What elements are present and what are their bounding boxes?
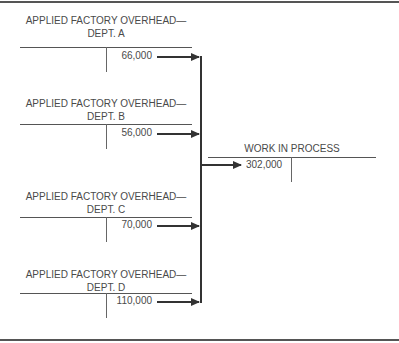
t-account-vertical-line (291, 157, 292, 182)
account-title-line2: DEPT. B (20, 110, 192, 123)
account-title: APPLIED FACTORY OVERHEAD— DEPT. C (20, 190, 192, 216)
account-title: APPLIED FACTORY OVERHEAD— DEPT. A (20, 14, 192, 40)
credit-amount: 70,000 (108, 219, 152, 231)
arrow-right-icon (157, 301, 199, 303)
t-account-vertical-line (106, 47, 107, 72)
arrow-right-icon (201, 164, 241, 166)
wip-title: WORK IN PROCESS (208, 142, 376, 155)
arrow-right-icon (157, 133, 199, 135)
account-title-line2: DEPT. C (20, 203, 192, 216)
account-title-line2: DEPT. A (20, 27, 192, 40)
account-title-line1: APPLIED FACTORY OVERHEAD— (20, 14, 192, 27)
account-title-line1: APPLIED FACTORY OVERHEAD— (20, 190, 192, 203)
account-title: APPLIED FACTORY OVERHEAD— DEPT. B (20, 97, 192, 123)
t-account-vertical-line (106, 293, 107, 318)
account-title: APPLIED FACTORY OVERHEAD— DEPT. D (20, 268, 192, 294)
flow-connector-line (200, 56, 202, 303)
t-account-vertical-line (106, 124, 107, 149)
arrow-right-icon (157, 56, 199, 58)
credit-amount: 66,000 (108, 50, 152, 62)
account-title-line1: APPLIED FACTORY OVERHEAD— (20, 97, 192, 110)
top-border (0, 1, 399, 3)
t-account-horizontal-line (208, 157, 376, 158)
account-title-line1: APPLIED FACTORY OVERHEAD— (20, 268, 192, 281)
credit-amount: 110,000 (108, 295, 152, 307)
bottom-border (0, 339, 399, 341)
arrow-right-icon (157, 225, 199, 227)
debit-amount: 302,000 (246, 159, 288, 171)
credit-amount: 56,000 (108, 127, 152, 139)
t-account-vertical-line (106, 217, 107, 242)
